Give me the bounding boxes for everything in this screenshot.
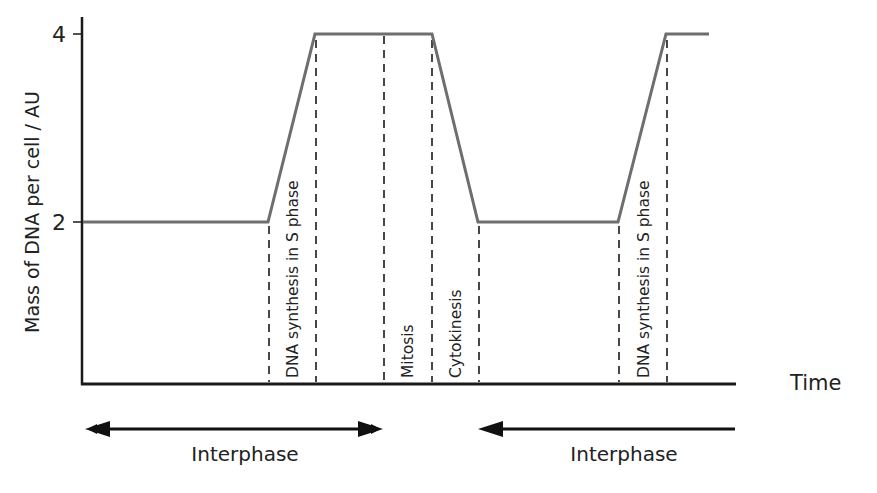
- dna-mass-chart: 4 2 Mass of DNA per cell / AU Time DNA s…: [0, 0, 877, 493]
- ytick-2-label: 2: [52, 210, 66, 235]
- phase-boundaries: [269, 36, 667, 382]
- s-phase-label-1: DNA synthesis in S phase: [284, 180, 302, 378]
- y-axis-label: Mass of DNA per cell / AU: [21, 91, 43, 333]
- dna-mass-curve: [83, 34, 709, 222]
- x-axis-label: Time: [789, 371, 841, 395]
- ytick-4-label: 4: [52, 22, 66, 47]
- interphase-arrow-1-left-head: [85, 421, 110, 437]
- interphase-arrow-1-right-head: [358, 421, 383, 437]
- interphase-label-2: Interphase: [570, 442, 677, 466]
- interphase-label-1: Interphase: [191, 442, 298, 466]
- s-phase-label-2: DNA synthesis in S phase: [635, 180, 653, 378]
- mitosis-label: Mitosis: [399, 324, 417, 378]
- interphase-arrow-2-left-head: [478, 421, 503, 437]
- cytokinesis-label: Cytokinesis: [447, 289, 465, 378]
